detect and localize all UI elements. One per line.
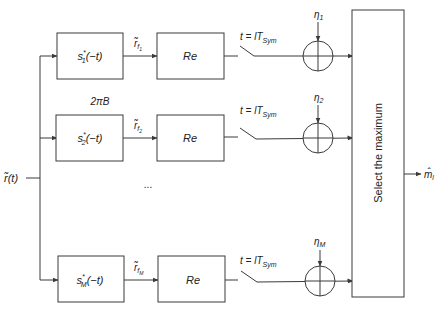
signal-label-1: r̃f1 [134,37,142,52]
signal-label-2: r̃f2 [134,119,142,134]
branch-m: s*M(−t) r̃fM Re t = lTSym ηM [40,236,353,302]
switch-label-1: t = lTSym [240,31,277,45]
sampling-switch-m [241,271,257,282]
matched-filter-1-label: s*1(−t) [78,49,103,64]
real-part-label-m: Re [186,274,200,286]
select-maximum-label: Select the maximum [372,103,384,203]
matched-filter-2-label: s*2(−t) [78,131,103,146]
noise-label-1: η1 [314,9,324,21]
ellipsis: ... [144,179,152,190]
noise-label-2: η2 [314,92,324,104]
sampling-switch-2 [240,128,256,139]
bandwidth-label: 2πB [90,96,110,107]
real-part-label-1: Re [183,50,197,62]
signal-label-m: r̃fM [134,261,144,276]
matched-filter-m-label: s*M(−t) [77,273,104,288]
branch-1: s*1(−t) r̃f1 Re t = lTSym η1 [40,9,353,79]
output-label: m̂l [424,167,434,181]
receiver-diagram: r̃(t) s*1(−t) r̃f1 Re t = lTSym η1 2πB s… [0,0,444,309]
sampling-switch-1 [240,46,254,56]
input-label: r̃(t) [4,172,19,184]
switch-label-m: t = lTSym [240,255,277,269]
switch-label-2: t = lTSym [240,105,277,119]
branch-2: s*2(−t) r̃f2 Re t = lTSym η2 [40,92,353,161]
noise-label-m: ηM [314,236,326,248]
real-part-label-2: Re [183,132,197,144]
